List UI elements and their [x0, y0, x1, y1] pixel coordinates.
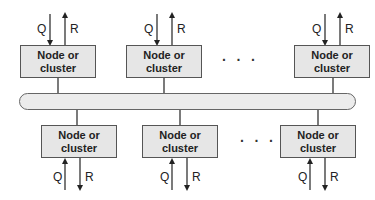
- bottom-node-2: Node or cluster: [142, 125, 218, 158]
- top-node-1: Node or cluster: [20, 45, 96, 78]
- top-r-label-3: R: [345, 22, 354, 36]
- top-node-2: Node or cluster: [126, 45, 202, 78]
- top-r-label-1: R: [70, 22, 79, 36]
- top-q-label-3: Q: [312, 22, 321, 36]
- bottom-r-label-3: R: [330, 170, 339, 184]
- bottom-ellipsis: · · ·: [240, 133, 277, 149]
- bottom-q-label-1: Q: [53, 170, 62, 184]
- bottom-node-1: Node or cluster: [41, 125, 117, 158]
- bottom-r-label-2: R: [192, 170, 201, 184]
- bottom-node-3: Node or cluster: [280, 125, 356, 158]
- top-node-3: Node or cluster: [294, 45, 370, 78]
- top-ellipsis: · · ·: [222, 52, 259, 68]
- bottom-r-label-1: R: [85, 170, 94, 184]
- top-q-label-1: Q: [37, 22, 46, 36]
- top-q-label-2: Q: [144, 22, 153, 36]
- interconnection-bus: [19, 93, 356, 110]
- bottom-q-label-2: Q: [160, 170, 169, 184]
- top-r-label-2: R: [177, 22, 186, 36]
- bottom-q-label-3: Q: [298, 170, 307, 184]
